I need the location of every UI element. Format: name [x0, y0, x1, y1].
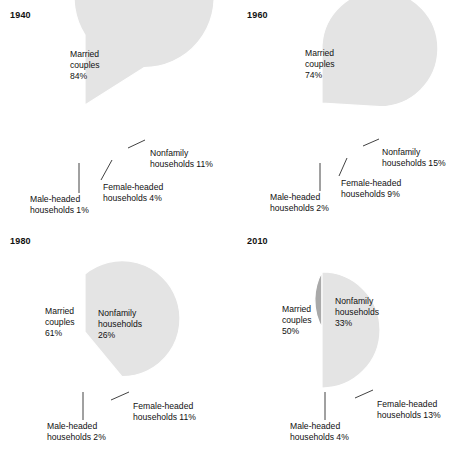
pie-panel-1940: 1940 Nonfamilyhouseholds 11%Female-heade… [0, 0, 237, 226]
pie-svg: Nonfamilyhouseholds33%Female-headedhouse… [237, 226, 474, 452]
slice-label: Female-headedhouseholds 11% [133, 401, 196, 422]
leader-line [111, 392, 129, 400]
pie-slice [322, 272, 380, 388]
leader-line [355, 390, 373, 398]
slice-label: Marriedcouples61% [45, 306, 75, 338]
leader-line [128, 140, 145, 148]
pie-svg: Nonfamilyhouseholds 11%Female-headedhous… [0, 0, 237, 226]
pie-chart-grid: 1940 Nonfamilyhouseholds 11%Female-heade… [0, 0, 474, 452]
slice-label: Male-headedhouseholds 1% [30, 194, 89, 215]
pie-panel-1980: 1980 Nonfamilyhouseholds26%Female-headed… [0, 226, 237, 452]
slice-label: Female-headedhouseholds 13% [377, 399, 441, 420]
pie-panel-1960: 1960 Nonfamilyhouseholds 15%Female-heade… [237, 0, 474, 226]
pie-svg: Nonfamilyhouseholds 15%Female-headedhous… [237, 0, 474, 226]
leader-line [101, 160, 112, 180]
slice-label: Male-headedhouseholds 4% [290, 421, 349, 442]
pie-panel-2010: 2010 Nonfamilyhouseholds33%Female-headed… [237, 226, 474, 452]
pie-slice [322, 0, 438, 107]
slice-label: Male-headedhouseholds 2% [47, 421, 106, 442]
slice-label: Nonfamilyhouseholds 15% [382, 147, 446, 168]
slice-label: Female-headedhouseholds 4% [103, 182, 163, 203]
slice-label: Nonfamilyhouseholds 11% [150, 148, 213, 169]
slice-label: Female-headedhouseholds 9% [341, 178, 401, 199]
leader-line [339, 158, 347, 176]
slice-label: Male-headedhouseholds 2% [270, 192, 329, 213]
slice-label: Marriedcouples50% [282, 304, 312, 336]
leader-line [363, 139, 379, 146]
pie-svg: Nonfamilyhouseholds26%Female-headedhouse… [0, 226, 237, 452]
